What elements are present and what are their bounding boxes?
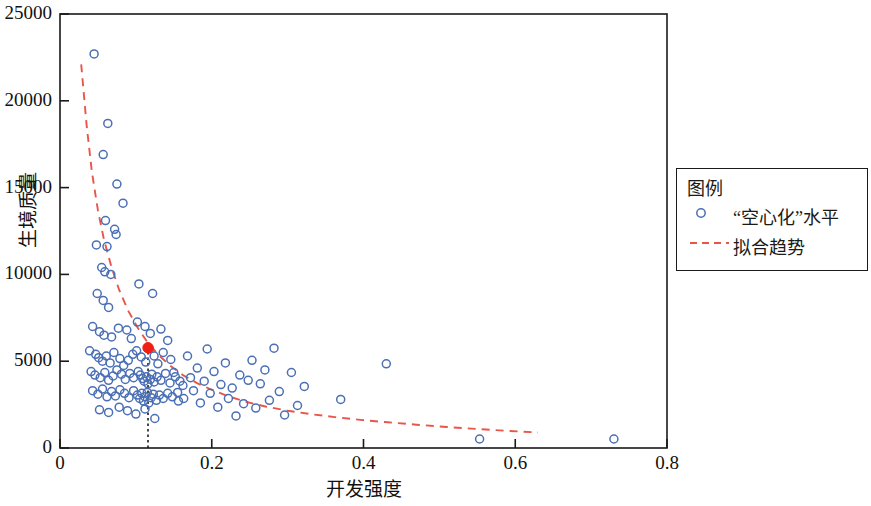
- legend: 图例 “空心化”水平 拟合趋势: [676, 168, 868, 271]
- highlight-marker: [143, 343, 153, 353]
- x-tick-label: 0.8: [637, 452, 697, 474]
- y-tick-label: 25000: [0, 2, 52, 24]
- legend-entry-trend: 拟合趋势: [685, 231, 867, 259]
- x-tick-label: 0.2: [182, 452, 242, 474]
- y-tick-label: 10000: [0, 262, 52, 284]
- x-tick-label: 0.4: [334, 452, 394, 474]
- legend-title: 图例: [687, 174, 723, 200]
- legend-dashed-line-icon: [689, 231, 731, 255]
- legend-label-trend: 拟合趋势: [733, 233, 805, 259]
- legend-open-circle-icon: [689, 201, 731, 225]
- legend-entry-scatter: “空心化”水平: [685, 201, 867, 229]
- x-tick-label: 0.6: [485, 452, 545, 474]
- y-tick-label: 0: [0, 436, 52, 458]
- y-tick-label: 20000: [0, 89, 52, 111]
- x-axis-label: 开发强度: [0, 474, 728, 501]
- legend-label-scatter: “空心化”水平: [733, 203, 839, 229]
- chart-figure: 开发强度 生境质量 00.20.40.60.805000100001500020…: [0, 0, 871, 506]
- y-tick-label: 5000: [0, 349, 52, 371]
- y-tick-label: 15000: [0, 176, 52, 198]
- highlight-point: [143, 343, 153, 353]
